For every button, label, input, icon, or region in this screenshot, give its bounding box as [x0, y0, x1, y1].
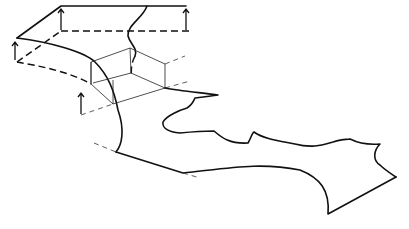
excavation-box	[91, 48, 165, 104]
river-dashed	[131, 56, 135, 74]
front-edge-curve	[17, 38, 122, 152]
uplift-arrows	[12, 9, 189, 114]
up-arrow-icon	[78, 93, 84, 114]
left-coast-dashed	[94, 143, 116, 152]
up-arrow-icon	[12, 42, 18, 60]
up-arrow-icon	[58, 9, 64, 30]
up-arrow-icon	[183, 9, 189, 30]
coastal-block-diagram	[0, 0, 409, 229]
top-layer-outline	[17, 6, 186, 38]
coastline-lower	[116, 152, 396, 214]
right-coast-dashed	[183, 173, 200, 178]
front-edge-dashed	[17, 62, 91, 84]
diagram-stage	[0, 0, 409, 229]
coastline-upper	[163, 88, 396, 177]
